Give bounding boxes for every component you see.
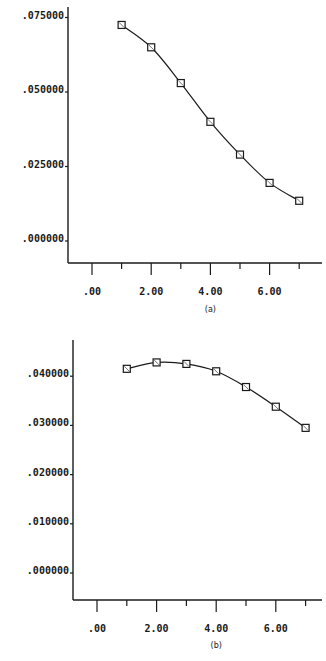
y-tick-label: .000000 xyxy=(27,565,69,576)
y-tick-label: .010000 xyxy=(27,516,69,527)
x-tick-label: 2.00 xyxy=(145,623,169,634)
y-tick-label: .020000 xyxy=(27,467,69,478)
y-tick-label: .075000 xyxy=(22,10,64,21)
y-tick-label: .040000 xyxy=(27,368,69,379)
line-chart-a: .000000.025000.050000.075000.002.004.006… xyxy=(0,0,326,330)
chart-a: .000000.025000.050000.075000.002.004.006… xyxy=(0,0,326,330)
y-tick-label: .025000 xyxy=(22,159,64,170)
x-tick-label: 4.00 xyxy=(204,623,228,634)
line-chart-b: .000000.010000.020000.030000.040000.002.… xyxy=(0,330,326,661)
x-tick-label: 2.00 xyxy=(139,286,163,297)
x-tick-label: 4.00 xyxy=(198,286,222,297)
chart-b: .000000.010000.020000.030000.040000.002.… xyxy=(0,330,326,661)
x-tick-label: 6.00 xyxy=(264,623,288,634)
y-tick-label: .000000 xyxy=(22,233,64,244)
x-tick-label: .00 xyxy=(88,623,106,634)
x-tick-label: .00 xyxy=(83,286,101,297)
x-tick-label: 6.00 xyxy=(258,286,282,297)
y-tick-label: .030000 xyxy=(27,417,69,428)
panel-caption: (b) xyxy=(211,641,222,650)
y-tick-label: .050000 xyxy=(22,84,64,95)
panel-caption: (a) xyxy=(205,305,216,314)
